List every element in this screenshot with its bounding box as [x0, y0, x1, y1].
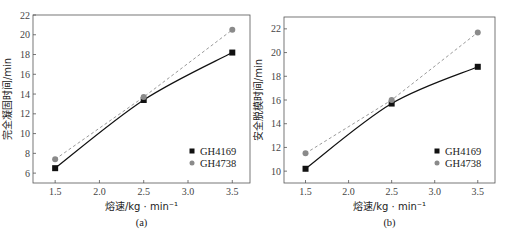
- chart-b: 1.52.02.53.03.510121416182022熔速/kg · min…: [252, 17, 495, 229]
- x-axis-label: 熔速/kg · min⁻¹: [353, 200, 426, 212]
- x-tick-label: 2.5: [137, 186, 150, 197]
- data-point-circle: [229, 27, 235, 33]
- data-point-square: [303, 166, 309, 172]
- y-tick-label: 22: [271, 23, 281, 34]
- figure-caption: (b): [383, 217, 396, 229]
- x-tick-label: 2.0: [93, 186, 106, 197]
- x-tick-label: 3.0: [182, 186, 195, 197]
- x-tick-label: 1.5: [299, 186, 312, 197]
- y-tick-label: 10: [20, 128, 30, 139]
- x-tick-label: 3.5: [226, 186, 239, 197]
- y-tick-label: 18: [271, 71, 281, 82]
- series-line: [306, 32, 478, 153]
- y-tick-label: 18: [20, 49, 30, 60]
- y-tick-label: 10: [271, 166, 281, 177]
- x-tick-label: 3.0: [428, 186, 441, 197]
- y-tick-label: 12: [271, 142, 281, 153]
- y-tick-label: 20: [271, 47, 281, 58]
- charts-figure: 1.52.02.53.03.56810121416182022熔速/kg · m…: [0, 0, 510, 240]
- x-tick-label: 2.5: [385, 186, 398, 197]
- y-tick-label: 20: [20, 29, 30, 40]
- legend-label: GH4738: [445, 158, 481, 169]
- figure-caption: (a): [136, 217, 148, 229]
- y-tick-label: 14: [271, 118, 281, 129]
- y-tick-label: 16: [271, 95, 281, 106]
- legend-marker-circle: [435, 161, 440, 166]
- data-point-circle: [141, 94, 147, 100]
- y-tick-label: 8: [25, 148, 30, 159]
- y-axis-label: 完全凝固时间/min: [1, 58, 13, 140]
- data-point-circle: [389, 97, 395, 103]
- y-tick-label: 6: [25, 168, 30, 179]
- data-point-square: [475, 64, 481, 70]
- x-tick-label: 2.0: [342, 186, 355, 197]
- y-axis-label: 安全脱模时间/min: [252, 59, 264, 141]
- data-point-square: [229, 50, 235, 56]
- x-tick-label: 3.5: [472, 186, 485, 197]
- data-point-circle: [303, 150, 309, 156]
- legend-marker-square: [435, 149, 440, 154]
- y-tick-label: 16: [20, 69, 30, 80]
- chart-a: 1.52.02.53.03.56810121416182022熔速/kg · m…: [1, 10, 250, 230]
- data-point-circle: [475, 29, 481, 35]
- data-point-circle: [52, 156, 58, 162]
- y-tick-label: 14: [20, 89, 30, 100]
- x-axis-label: 熔速/kg · min⁻¹: [105, 200, 178, 212]
- x-tick-label: 1.5: [49, 186, 62, 197]
- legend-marker-square: [190, 149, 195, 154]
- legend-label: GH4169: [445, 146, 481, 157]
- series-GH4738: [303, 29, 481, 156]
- y-tick-label: 22: [20, 10, 30, 21]
- legend-label: GH4738: [200, 158, 236, 169]
- y-tick-label: 12: [20, 108, 30, 119]
- data-point-square: [52, 165, 58, 171]
- series-GH4738: [52, 27, 235, 162]
- legend-label: GH4169: [200, 146, 236, 157]
- legend-marker-circle: [190, 161, 195, 166]
